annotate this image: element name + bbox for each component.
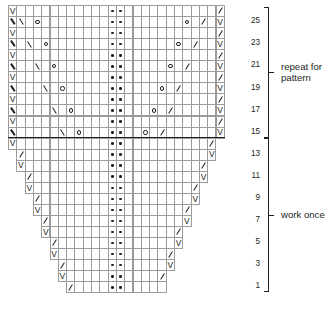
symbol-left-decrease-icon — [44, 85, 49, 92]
symbol-v-icon: V — [192, 194, 198, 203]
symbol-bold-left-decrease-icon — [10, 129, 16, 136]
symbol-bold-left-decrease-icon — [10, 107, 16, 114]
symbol-v-icon: V — [209, 150, 215, 159]
symbol-yarnover-icon — [60, 86, 64, 90]
symbol-v-icon: V — [10, 29, 16, 38]
symbol-purl-dot-icon — [111, 187, 114, 190]
chart-cell[interactable]: V — [207, 149, 216, 161]
symbol-right-decrease-icon — [35, 196, 40, 203]
row-number-label: 19 — [246, 84, 260, 92]
symbol-purl-dot-icon — [111, 142, 114, 145]
repeat-bracket — [268, 7, 276, 138]
symbol-yarnover-icon — [168, 64, 172, 68]
symbol-purl-dot-icon — [111, 10, 114, 13]
symbol-purl-dot-icon — [119, 164, 122, 167]
bracket-midtick — [268, 72, 274, 73]
symbol-purl-dot-icon — [111, 32, 114, 35]
symbol-v-icon: V — [217, 84, 223, 93]
symbol-v-icon: V — [217, 128, 223, 137]
symbol-right-decrease-icon — [168, 251, 173, 258]
symbol-bold-left-decrease-icon — [10, 63, 16, 70]
symbol-yarnover-icon — [77, 130, 81, 134]
symbol-v-icon: V — [168, 261, 174, 270]
symbol-v-icon: V — [10, 73, 16, 82]
repeat-bracket-label: repeat for pattern — [281, 61, 322, 84]
symbol-purl-dot-icon — [119, 286, 122, 289]
symbol-purl-dot-icon — [111, 43, 114, 46]
bracket-midtick — [268, 215, 274, 216]
symbol-purl-dot-icon — [119, 231, 122, 234]
symbol-right-decrease-icon — [218, 30, 223, 37]
symbol-purl-dot-icon — [119, 76, 122, 79]
symbol-purl-dot-icon — [119, 198, 122, 201]
symbol-v-icon: V — [43, 228, 49, 237]
repeat-separator-line — [8, 137, 225, 139]
symbol-v-icon: V — [10, 51, 16, 60]
symbol-right-decrease-icon — [201, 19, 206, 26]
symbol-left-decrease-icon — [35, 63, 40, 70]
symbol-bold-left-decrease-icon — [10, 19, 16, 26]
symbol-purl-dot-icon — [119, 32, 122, 35]
chart-cell[interactable]: V — [182, 215, 191, 227]
symbol-purl-dot-icon — [119, 209, 122, 212]
chart-cell[interactable] — [157, 281, 166, 293]
symbol-right-decrease-icon — [218, 8, 223, 15]
symbol-purl-dot-icon — [119, 120, 122, 123]
symbol-v-icon: V — [217, 62, 223, 71]
row-number-label: 7 — [246, 216, 260, 224]
symbol-right-decrease-icon — [176, 85, 181, 92]
bracket-tick-top — [264, 7, 269, 8]
symbol-purl-dot-icon — [111, 109, 114, 112]
symbol-right-decrease-icon — [201, 162, 206, 169]
symbol-purl-dot-icon — [111, 253, 114, 256]
symbol-right-decrease-icon — [160, 129, 165, 136]
symbol-purl-dot-icon — [119, 43, 122, 46]
symbol-v-icon: V — [184, 217, 190, 226]
symbol-right-decrease-icon — [19, 151, 24, 158]
symbol-left-decrease-icon — [27, 41, 32, 48]
row-number-label: 13 — [246, 150, 260, 158]
chart-cell[interactable]: V — [166, 259, 175, 271]
symbol-purl-dot-icon — [111, 242, 114, 245]
symbol-v-icon: V — [18, 161, 24, 170]
symbol-right-decrease-icon — [52, 240, 57, 247]
symbol-yarnover-icon — [52, 64, 56, 68]
symbol-purl-dot-icon — [119, 54, 122, 57]
chart-cell[interactable]: V — [191, 193, 200, 205]
symbol-purl-dot-icon — [111, 264, 114, 267]
symbol-purl-dot-icon — [119, 153, 122, 156]
symbol-right-decrease-icon — [218, 74, 223, 81]
row-number-label: 15 — [246, 128, 260, 136]
symbol-v-icon: V — [201, 172, 207, 181]
symbol-right-decrease-icon — [218, 96, 223, 103]
symbol-v-icon: V — [217, 106, 223, 115]
symbol-purl-dot-icon — [119, 275, 122, 278]
symbol-bold-left-decrease-icon — [10, 41, 16, 48]
chart-cell[interactable]: V — [199, 171, 208, 183]
chart-cell[interactable]: V — [174, 237, 183, 249]
symbol-yarnover-icon — [160, 86, 164, 90]
symbol-v-icon: V — [10, 7, 16, 16]
symbol-left-decrease-icon — [60, 129, 65, 136]
symbol-right-decrease-icon — [185, 207, 190, 214]
row-number-label: 21 — [246, 61, 260, 69]
symbol-v-icon: V — [217, 18, 223, 27]
symbol-purl-dot-icon — [119, 242, 122, 245]
symbol-v-icon: V — [176, 239, 182, 248]
symbol-purl-dot-icon — [111, 76, 114, 79]
symbol-yarnover-icon — [185, 20, 189, 24]
symbol-right-decrease-icon — [60, 262, 65, 269]
symbol-yarnover-icon — [152, 108, 156, 112]
symbol-right-decrease-icon — [210, 140, 215, 147]
symbol-left-decrease-icon — [52, 107, 57, 114]
symbol-purl-dot-icon — [119, 131, 122, 134]
symbol-purl-dot-icon — [111, 220, 114, 223]
symbol-right-decrease-icon — [185, 63, 190, 70]
symbol-purl-dot-icon — [111, 54, 114, 57]
symbol-purl-dot-icon — [119, 98, 122, 101]
symbol-v-icon: V — [51, 250, 57, 258]
symbol-yarnover-icon — [44, 42, 48, 46]
symbol-yarnover-icon — [35, 20, 39, 24]
symbol-purl-dot-icon — [111, 120, 114, 123]
symbol-purl-dot-icon — [111, 65, 114, 68]
